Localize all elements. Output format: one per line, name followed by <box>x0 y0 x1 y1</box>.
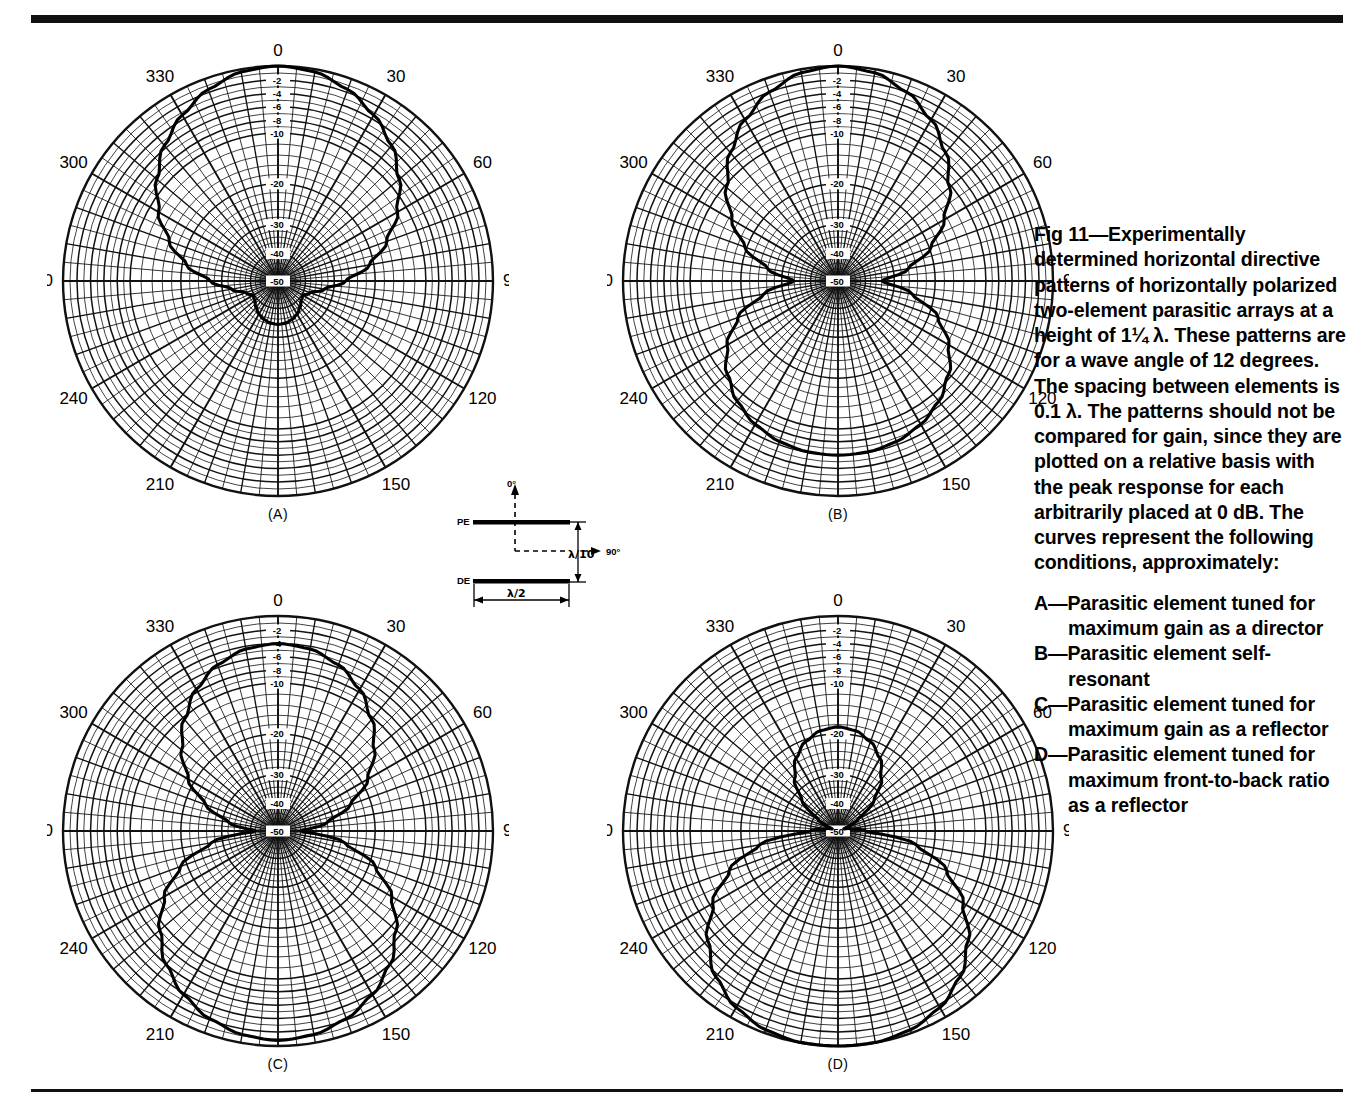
grid-spoke <box>187 281 278 476</box>
angle-tick-label: 90 <box>503 271 509 290</box>
length-arrow-left <box>474 597 483 604</box>
panel-label-c: (C) <box>47 1056 509 1072</box>
parasitic-element-bar <box>473 520 570 525</box>
angle-tick-label: 120 <box>1028 939 1056 958</box>
length-label: λ/2 <box>507 587 526 600</box>
spacing-arrow-down <box>575 574 582 582</box>
grid-spoke <box>278 831 473 922</box>
grid-spoke <box>838 831 929 1026</box>
antenna-element-diagram: PE DE 0° 90° λ/10 λ/2 <box>455 476 645 611</box>
radial-tick-label: -20 <box>830 178 844 189</box>
grid-spoke <box>278 262 492 281</box>
grid-spoke <box>278 281 369 476</box>
angle-tick-label: 270 <box>47 821 53 840</box>
polar-chart-d: -2-4-6-8-10-20-30-40-5003060901201501802… <box>607 592 1069 1054</box>
radial-tick-label: -40 <box>270 248 284 259</box>
radial-tick-label: -40 <box>830 798 844 809</box>
radial-tick-label: -6 <box>833 651 841 662</box>
angle-tick-label: 300 <box>619 153 647 172</box>
grid-spoke <box>838 831 857 1045</box>
grid-spoke <box>819 831 838 1045</box>
grid-spoke <box>259 281 278 495</box>
grid-spoke <box>187 831 278 1026</box>
grid-spoke <box>187 86 278 281</box>
radial-tick-label: -20 <box>270 728 284 739</box>
grid-spoke <box>64 281 278 300</box>
driven-element-label: DE <box>457 575 470 586</box>
radial-tick-label: -2 <box>833 625 841 636</box>
angle-tick-label: 330 <box>146 617 174 636</box>
direction-up-label: 0° <box>507 478 516 489</box>
spacing-label: λ/10 <box>568 548 595 561</box>
angle-tick-label: 150 <box>382 475 410 494</box>
length-arrow-right <box>560 597 569 604</box>
angle-tick-label: 330 <box>146 67 174 86</box>
radial-tick-label: -30 <box>270 769 284 780</box>
radial-tick-label: -20 <box>830 728 844 739</box>
angle-tick-label: 240 <box>59 389 87 408</box>
condition-item-b: B—Parasitic element self-resonant <box>1034 641 1346 692</box>
angle-tick-label: 150 <box>942 475 970 494</box>
radial-tick-label: -8 <box>833 115 841 126</box>
radial-tick-label: -2 <box>273 625 281 636</box>
grid-spoke <box>278 831 297 1045</box>
radial-tick-label: -4 <box>833 638 842 649</box>
radial-tick-label: -8 <box>273 665 281 676</box>
grid-spoke <box>278 281 297 495</box>
angle-tick-label: 270 <box>607 271 613 290</box>
radial-tick-label: -50 <box>270 826 284 837</box>
grid-spoke <box>643 831 838 922</box>
grid-spoke <box>838 812 1052 831</box>
angle-tick-label: 210 <box>146 1025 174 1044</box>
parasitic-element-label: PE <box>457 516 470 527</box>
grid-spoke <box>838 740 1033 831</box>
angle-tick-label: 30 <box>947 617 966 636</box>
grid-spoke <box>819 281 838 495</box>
grid-spoke <box>278 190 473 281</box>
spacing-arrow-up <box>575 522 582 530</box>
angle-tick-label: 90 <box>1063 821 1069 840</box>
polar-chart-b: -2-4-6-8-10-20-30-40-5003060901201501802… <box>607 42 1069 504</box>
radial-tick-label: -8 <box>833 665 841 676</box>
angle-tick-label: 300 <box>59 703 87 722</box>
polar-chart-c: -2-4-6-8-10-20-30-40-5003060901201501802… <box>47 592 509 1054</box>
grid-spoke <box>187 636 278 831</box>
grid-spoke <box>838 281 857 495</box>
grid-spoke <box>83 831 278 922</box>
angle-tick-label: 180 <box>824 503 852 504</box>
panel-label-a: (A) <box>47 506 509 522</box>
angle-tick-label: 150 <box>382 1025 410 1044</box>
grid-spoke <box>64 262 278 281</box>
radial-tick-label: -2 <box>273 75 281 86</box>
angle-tick-label: 30 <box>387 617 406 636</box>
angle-tick-label: 330 <box>706 617 734 636</box>
grid-spoke <box>83 190 278 281</box>
radial-tick-label: -50 <box>830 276 844 287</box>
angle-tick-label: 60 <box>1033 153 1052 172</box>
radial-tick-label: -50 <box>270 276 284 287</box>
angle-tick-label: 60 <box>473 153 492 172</box>
angle-tick-label: 180 <box>824 1053 852 1054</box>
condition-item-d: D—Parasitic element tuned for maximum fr… <box>1034 742 1346 818</box>
panel-label-b: (B) <box>607 506 1069 522</box>
angle-tick-label: 300 <box>59 153 87 172</box>
grid-spoke <box>624 281 838 300</box>
grid-spoke <box>259 831 278 1045</box>
grid-spoke <box>643 740 838 831</box>
angle-tick-label: 30 <box>387 67 406 86</box>
angle-tick-label: 210 <box>706 1025 734 1044</box>
bottom-rule <box>31 1089 1343 1092</box>
grid-spoke <box>838 636 929 831</box>
angle-tick-label: 150 <box>942 1025 970 1044</box>
angle-tick-label: 240 <box>59 939 87 958</box>
angle-tick-label: 0 <box>273 42 282 60</box>
grid-spoke <box>278 636 369 831</box>
grid-spoke <box>624 812 838 831</box>
condition-list: A—Parasitic element tuned for maximum ga… <box>1034 591 1346 818</box>
radial-tick-label: -40 <box>270 798 284 809</box>
grid-spoke <box>838 281 1033 372</box>
angle-tick-label: 240 <box>619 389 647 408</box>
panel-label-d: (D) <box>607 1056 1069 1072</box>
grid-spoke <box>838 281 1052 300</box>
radial-tick-label: -30 <box>830 219 844 230</box>
